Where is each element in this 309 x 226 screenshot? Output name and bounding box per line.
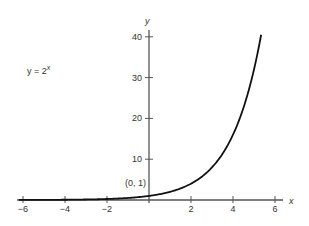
x-tick-label: 4 xyxy=(230,204,235,214)
y-ticks: 10203040 xyxy=(132,32,153,164)
exponential-chart: −6−4−2246 x 10203040 y y = 2x (0, 1) xyxy=(0,0,309,226)
x-tick-label: −4 xyxy=(60,204,70,214)
equation-exponent: x xyxy=(46,64,51,71)
x-axis-label: x xyxy=(288,196,294,206)
point-annotation: (0, 1) xyxy=(125,178,146,188)
equation-base: y = 2 xyxy=(27,66,47,76)
y-tick-label: 30 xyxy=(132,73,142,83)
x-ticks: −6−4−2246 xyxy=(18,196,278,214)
x-tick-label: 2 xyxy=(188,204,193,214)
x-tick-label: −6 xyxy=(18,204,28,214)
y-tick-label: 20 xyxy=(132,113,142,123)
x-axis: −6−4−2246 x xyxy=(17,196,294,214)
y-tick-label: 40 xyxy=(132,32,142,42)
equation-label: y = 2x xyxy=(27,64,51,76)
y-tick-label: 10 xyxy=(132,154,142,164)
x-tick-label: 6 xyxy=(272,204,277,214)
x-tick-label: −2 xyxy=(102,204,112,214)
y-axis-label: y xyxy=(144,16,150,26)
y-axis: 10203040 y xyxy=(132,16,153,203)
